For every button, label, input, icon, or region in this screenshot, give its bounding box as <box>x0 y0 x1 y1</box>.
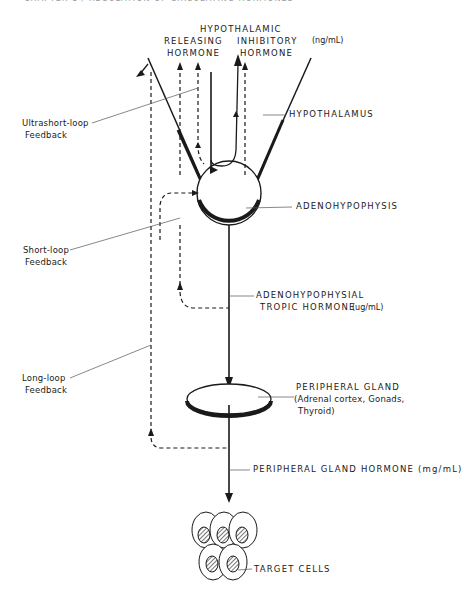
ultrashort-feedback-label-line1: Ultrashort-loop <box>22 118 89 129</box>
short-feedback-label-line2: Feedback <box>25 257 67 268</box>
long-feedback-label-line2: Feedback <box>25 385 67 396</box>
hypothalamic-unit: (ng/mL) <box>312 36 343 46</box>
releasing-label-line2: HORMONE <box>167 48 220 59</box>
peripheral-gland-detail-line1: (Adrenal cortex, Gonads, <box>294 394 405 405</box>
peripheral-gland-label: PERIPHERAL GLAND <box>296 382 400 393</box>
hypothalamus-label: HYPOTHALAMUS <box>289 109 374 120</box>
ultrashort-feedback-label-line2: Feedback <box>25 130 67 141</box>
releasing-label-line1: RELEASING <box>164 36 223 47</box>
adenohypophysis-label: ADENOHYPOPHYSIS <box>296 201 398 212</box>
adenohypophysis-gland <box>197 161 261 225</box>
leader-lines <box>70 88 294 570</box>
target-cells <box>192 512 257 580</box>
tropic-hormone-label-line2: TROPIC HORMONE <box>260 302 356 313</box>
long-feedback-label-line1: Long-loop <box>22 373 66 384</box>
inhibitory-label-line1: INHIBITORY <box>237 36 298 47</box>
tropic-hormone-label-line1: ADENOHYPOPHYSIAL <box>256 290 365 301</box>
inhibitory-label-line2: HORMONE <box>240 48 293 59</box>
short-feedback-label-line1: Short-loop <box>23 245 69 256</box>
tropic-hormone-unit: (ug/mL) <box>352 303 383 313</box>
peripheral-hormone-label: PERIPHERAL GLAND HORMONE (mg/mL) <box>253 464 463 475</box>
hypothalamic-label: HYPOTHALAMIC <box>200 24 282 35</box>
target-cells-label: TARGET CELLS <box>254 564 331 575</box>
peripheral-gland-detail-line2: Thyroid) <box>298 406 335 417</box>
inhibitory-hormone-arrow <box>211 64 238 166</box>
